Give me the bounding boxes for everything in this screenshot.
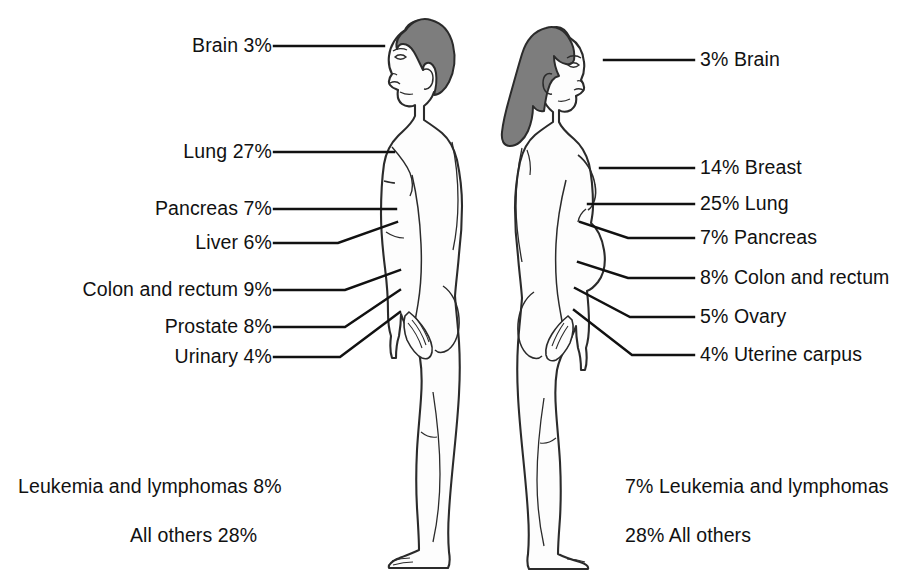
male-label-pancreas: Pancreas 7% [155,199,272,219]
female-footer-all-others: 28% All others [625,526,751,546]
female-label-breast: 14% Breast [700,158,802,178]
female-label-colon-and-rectum: 8% Colon and rectum [700,268,889,288]
female-label-pancreas: 7% Pancreas [700,228,817,248]
female-label-uterine-carpus: 4% Uterine carpus [700,345,862,365]
female-label-ovary: 5% Ovary [700,307,786,327]
female-footer-leukemia-and-lymphomas: 7% Leukemia and lymphomas [625,477,889,497]
male-label-prostate: Prostate 8% [165,317,272,337]
female-label-brain: 3% Brain [700,50,780,70]
male-footer-all-others: All others 28% [130,526,257,546]
cancer-deaths-diagram: Brain 3% Lung 27% Pancreas 7% Liver 6% C… [0,0,918,576]
male-label-liver: Liver 6% [195,233,272,253]
male-footer-leukemia-and-lymphomas: Leukemia and lymphomas 8% [18,477,282,497]
female-label-lung: 25% Lung [700,194,789,214]
male-label-brain: Brain 3% [192,36,272,56]
male-label-urinary: Urinary 4% [175,347,272,367]
male-label-lung: Lung 27% [183,142,272,162]
male-label-colon-and-rectum: Colon and rectum 9% [83,280,272,300]
